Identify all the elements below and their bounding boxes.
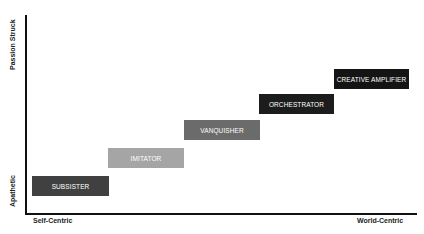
y-axis-line xyxy=(25,15,27,215)
x-axis-line xyxy=(25,213,417,215)
x-axis-left-label: Self-Centric xyxy=(33,217,72,224)
y-axis-bottom-label: Apathetic xyxy=(9,175,16,207)
stage-subsister: SUBSISTER xyxy=(32,176,109,196)
stage-imitator: IMITATOR xyxy=(108,148,184,168)
stage-creative-amplifier: CREATIVE AMPLIFIER xyxy=(334,69,409,89)
stage-vanquisher: VANQUISHER xyxy=(184,120,260,140)
x-axis-right-label: World-Centric xyxy=(357,217,403,224)
stage-orchestrator: ORCHESTRATOR xyxy=(259,94,334,114)
y-axis-top-label: Passion Struck xyxy=(9,19,16,70)
